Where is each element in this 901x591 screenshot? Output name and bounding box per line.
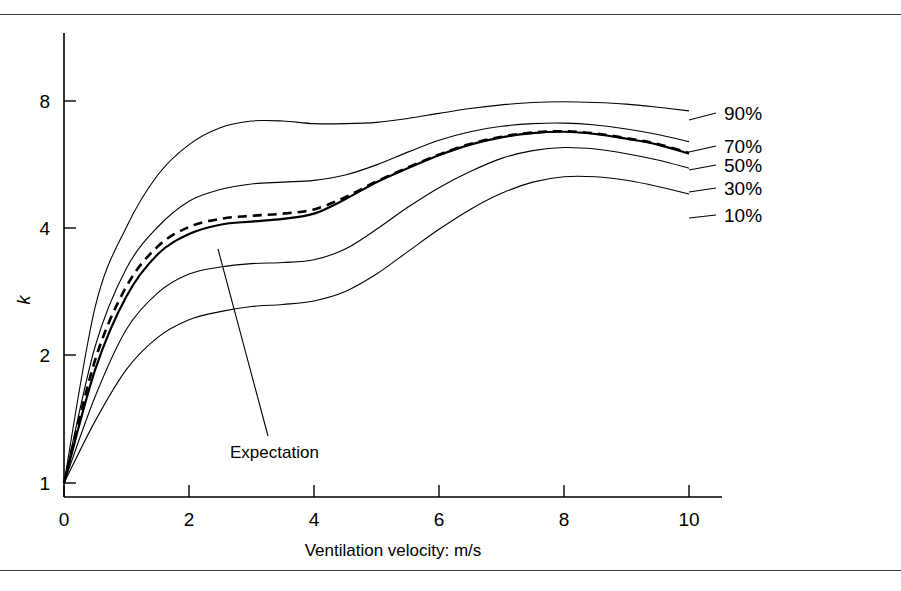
series-label-90: 90%: [724, 103, 762, 124]
y-axis-ticks: [64, 101, 76, 483]
curve-30-percent: [64, 148, 689, 483]
series-label-50: 50%: [724, 155, 762, 176]
series-leader-lines: [689, 113, 716, 218]
y-tick-label-8: 8: [39, 91, 50, 112]
axes: [64, 33, 722, 497]
curve-expectation-dashed: [64, 131, 689, 483]
leader-line-90: [689, 113, 716, 120]
leader-line-70: [689, 146, 716, 152]
x-axis-ticks: [64, 485, 689, 497]
x-tick-label-2: 2: [184, 509, 195, 530]
x-tick-label-6: 6: [434, 509, 445, 530]
leader-line-50: [689, 165, 716, 170]
y-axis-title: k: [14, 295, 34, 305]
x-tick-label-4: 4: [309, 509, 320, 530]
expectation-leader-line: [218, 249, 268, 436]
leader-line-10: [689, 215, 716, 218]
leader-line-30: [689, 188, 716, 192]
y-axis-tick-labels: 8 4 2 1: [39, 91, 50, 494]
curve-50-percent: [64, 132, 689, 483]
y-tick-label-2: 2: [39, 345, 50, 366]
series-label-70: 70%: [724, 136, 762, 157]
series-label-10: 10%: [724, 205, 762, 226]
figure-container: 8 4 2 1 0 2 4 6 8 10 Ventilation velocit…: [0, 0, 901, 591]
series-label-30: 30%: [724, 178, 762, 199]
y-tick-label-1: 1: [39, 473, 50, 494]
series-labels: 90% 70% 50% 30% 10%: [724, 103, 762, 226]
curve-10-percent: [64, 176, 689, 483]
x-axis-tick-labels: 0 2 4 6 8 10: [59, 509, 700, 530]
expectation-label: Expectation: [230, 443, 319, 462]
chart-svg: 8 4 2 1 0 2 4 6 8 10 Ventilation velocit…: [0, 0, 901, 591]
x-axis-title: Ventilation velocity: m/s: [305, 541, 482, 560]
x-tick-label-8: 8: [559, 509, 570, 530]
data-curves: [64, 102, 689, 483]
x-tick-label-10: 10: [678, 509, 699, 530]
x-tick-label-0: 0: [59, 509, 70, 530]
y-tick-label-4: 4: [39, 218, 50, 239]
expectation-annotation: Expectation: [218, 249, 319, 462]
